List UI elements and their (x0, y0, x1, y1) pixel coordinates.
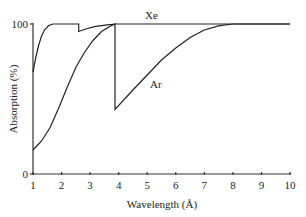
series-label-ar: Ar (150, 78, 162, 90)
y-tick-label-0: 0 (23, 168, 29, 180)
x-tick-label: 5 (144, 179, 150, 191)
axes: 12345678910 100 0 Wavelength (Å) Absorpt… (7, 18, 296, 211)
x-tick-label: 6 (173, 179, 179, 191)
series-xe-curve (33, 24, 290, 72)
x-tick-label: 10 (285, 179, 297, 191)
x-tick-label: 9 (259, 179, 265, 191)
absorption-chart: 12345678910 100 0 Wavelength (Å) Absorpt… (0, 0, 306, 217)
x-ticks: 12345678910 (30, 172, 296, 191)
x-tick-label: 2 (59, 179, 65, 191)
x-axis-title: Wavelength (Å) (127, 198, 198, 211)
y-tick-label-100: 100 (12, 18, 29, 30)
x-tick-label: 3 (87, 179, 93, 191)
series-label-xe: Xe (145, 9, 158, 21)
x-tick-label: 7 (202, 179, 208, 191)
x-tick-label: 4 (116, 179, 122, 191)
x-tick-label: 1 (30, 179, 36, 191)
x-tick-label: 8 (230, 179, 236, 191)
y-axis-title: Absorption (%) (7, 64, 20, 133)
